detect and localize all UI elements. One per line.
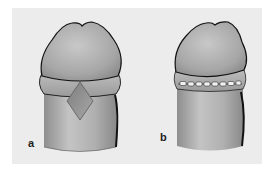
panel-b-shaft — [177, 88, 243, 151]
panel-label-b: b — [160, 131, 167, 143]
panel-b-illustration — [174, 22, 246, 151]
panel-a-cap — [41, 22, 121, 81]
panel-b-cap — [175, 22, 246, 77]
panel-a-illustration — [39, 22, 121, 152]
panel-label-a: a — [28, 137, 34, 149]
anatomical-diagram — [0, 0, 269, 171]
